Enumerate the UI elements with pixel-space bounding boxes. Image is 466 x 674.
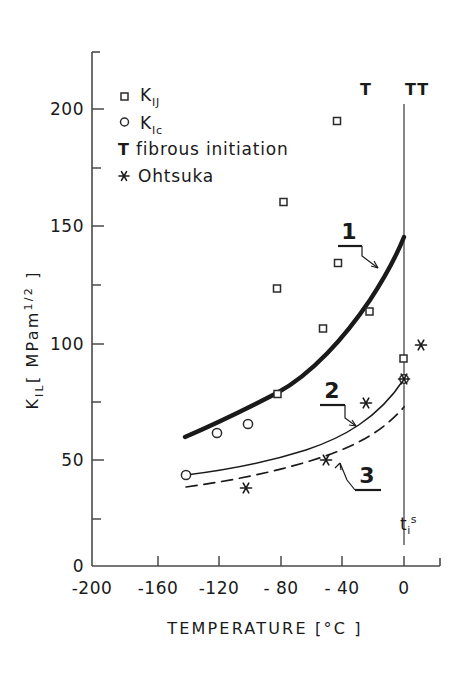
curve-1-path <box>185 237 404 437</box>
legend-label-kij: KIJ <box>140 85 160 109</box>
curve-1-leader-arrow <box>371 261 378 268</box>
x-tick-label-minus200: -200 <box>72 578 113 598</box>
x-axis-title: TEMPERATURE [°C ] <box>166 619 363 638</box>
legend-marker-square <box>121 93 128 100</box>
series-ohtsuka-markers <box>241 340 427 493</box>
curve-3-leader-line <box>340 463 355 490</box>
x-tick-label-minus80: - 80 <box>263 578 298 598</box>
data-point-circle <box>181 470 190 479</box>
x-tick-label-minus40: - 40 <box>324 578 359 598</box>
curve-3-leader-arrow <box>335 463 341 470</box>
y-axis-title: KIL[ MPam1/2 ] <box>22 270 46 409</box>
y-tick-label-200: 200 <box>50 99 84 119</box>
y-tick-label-150: 150 <box>50 216 84 236</box>
legend-label-fibrous: fibrous initiation <box>136 139 289 159</box>
data-point-square <box>335 260 342 267</box>
data-point-square <box>274 391 281 398</box>
curve-label-1: 1 <box>341 219 356 244</box>
legend-label-kic: KIc <box>140 113 163 137</box>
data-point-asterisk <box>321 455 332 465</box>
figure-container: 200 150 100 50 0 -200 -160 -120 - 80 - 4… <box>0 0 466 674</box>
svg-text:KIL[ MPam1/2 ]: KIL[ MPam1/2 ] <box>22 270 46 409</box>
data-point-square <box>334 118 341 125</box>
data-point-square <box>320 325 327 332</box>
y-axis-title-sup: 1/2 <box>22 286 35 310</box>
data-point-circle <box>243 419 252 428</box>
y-axis-title-sub: IL <box>33 383 46 397</box>
series-kij-markers <box>274 118 408 398</box>
data-point-asterisk <box>361 398 372 408</box>
data-point-asterisk <box>241 483 252 493</box>
y-tick-label-50: 50 <box>61 450 84 470</box>
curve-2-path <box>186 379 404 475</box>
vertical-line-label: tis <box>400 513 417 537</box>
curve-label-2: 2 <box>324 378 339 403</box>
y-axis-title-bracket-open: [ MPam <box>23 310 42 383</box>
data-point-square <box>366 308 373 315</box>
x-tick-label-0: 0 <box>398 578 409 598</box>
data-point-square <box>280 199 287 206</box>
x-tick-label-minus160: -160 <box>138 578 179 598</box>
legend-marker-asterisk <box>119 172 129 181</box>
y-origin-label: 0 <box>73 556 84 576</box>
y-axis-title-bracket-close: ] <box>23 270 42 286</box>
legend-marker-circle <box>121 118 129 126</box>
data-point-asterisk <box>416 340 427 350</box>
x-tick-label-minus120: -120 <box>199 578 240 598</box>
curve-label-3: 3 <box>359 463 374 488</box>
data-point-square <box>274 285 281 292</box>
data-point-square <box>400 355 407 362</box>
t-marker-right: TT <box>405 80 429 99</box>
legend-marker-t: T <box>118 140 130 159</box>
y-tick-label-100: 100 <box>50 334 84 354</box>
legend-label-ohtsuka: Ohtsuka <box>138 166 214 186</box>
chart-svg: 200 150 100 50 0 -200 -160 -120 - 80 - 4… <box>0 0 466 674</box>
x-ticks <box>158 556 404 566</box>
legend: KIJ KIc T fibrous initiation Ohtsuka <box>118 85 289 186</box>
data-point-circle <box>212 428 221 437</box>
y-axis-title-main: K <box>23 397 42 410</box>
t-marker-left: T <box>360 80 372 99</box>
